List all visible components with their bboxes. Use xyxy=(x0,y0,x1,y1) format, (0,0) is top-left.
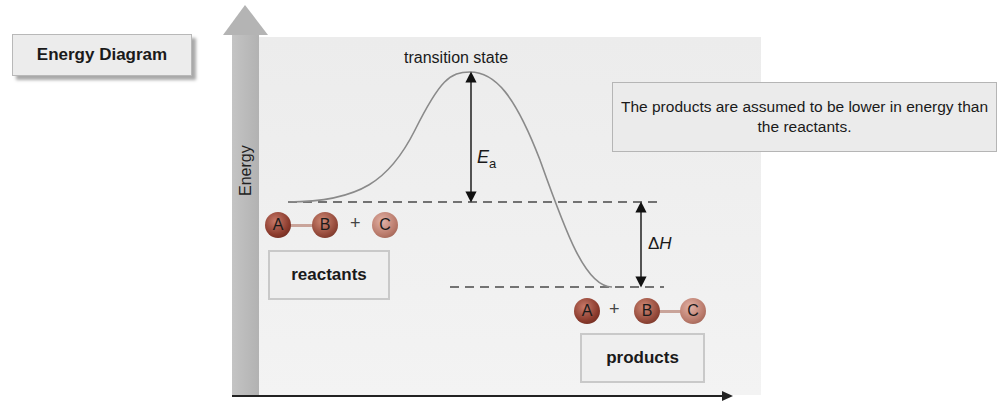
ea-symbol: E xyxy=(477,147,489,167)
ea-subscript: a xyxy=(489,156,496,171)
atom-c: C xyxy=(680,298,706,324)
products-label-box: products xyxy=(580,333,705,383)
plus-sign: + xyxy=(609,299,620,320)
h-symbol: H xyxy=(659,234,671,253)
reactants-label: reactants xyxy=(291,265,367,285)
transition-state-label: transition state xyxy=(404,49,508,67)
atom-a: A xyxy=(574,298,600,324)
delta-symbol: Δ xyxy=(648,234,659,253)
energy-axis-arrow xyxy=(223,5,268,396)
atom-b: B xyxy=(312,212,338,238)
note-box: The products are assumed to be lower in … xyxy=(612,82,997,152)
y-axis-label: Energy xyxy=(237,145,255,196)
plus-sign: + xyxy=(350,213,361,234)
reactants-label-box: reactants xyxy=(268,250,390,300)
atom-c: C xyxy=(372,212,398,238)
note-text: The products are assumed to be lower in … xyxy=(613,97,996,137)
atom-b: B xyxy=(634,298,660,324)
activation-energy-label: Ea xyxy=(477,147,496,171)
enthalpy-change-label: ΔH xyxy=(648,234,672,254)
products-label: products xyxy=(606,348,679,368)
atom-a: A xyxy=(265,212,291,238)
reaction-axis-arrow xyxy=(232,391,733,401)
